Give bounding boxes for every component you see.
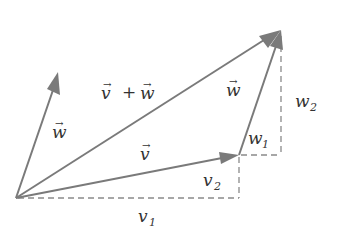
label-v1: v 1 xyxy=(138,206,156,229)
svg-text:→: → xyxy=(142,140,151,151)
svg-text:1: 1 xyxy=(149,216,156,229)
label-v: v → xyxy=(140,140,151,164)
svg-text:w: w xyxy=(248,128,263,148)
arrowhead-icon xyxy=(219,152,239,164)
label-w-origin: w → xyxy=(52,118,67,142)
label-w1: w 1 xyxy=(248,128,269,151)
label-sum: v → + w → xyxy=(101,79,155,103)
svg-text:v: v xyxy=(138,206,148,226)
svg-text:1: 1 xyxy=(262,138,269,151)
label-w2: w 2 xyxy=(295,91,317,114)
label-v2: v 2 xyxy=(203,170,221,193)
label-w-translated: w → xyxy=(226,76,241,100)
svg-text:→: → xyxy=(229,76,238,87)
svg-text:→: → xyxy=(55,118,64,129)
svg-text:v: v xyxy=(203,170,213,190)
svg-text:w: w xyxy=(295,91,310,111)
svg-text:2: 2 xyxy=(213,180,221,193)
svg-text:→: → xyxy=(103,79,112,90)
vector-addition-diagram: w → v → + w → w → v → w 1 w 2 v 2 v 1 xyxy=(0,0,339,240)
svg-text:+: + xyxy=(122,82,136,102)
arrowhead-icon xyxy=(47,72,60,95)
svg-text:2: 2 xyxy=(309,101,317,114)
svg-text:→: → xyxy=(143,79,152,90)
